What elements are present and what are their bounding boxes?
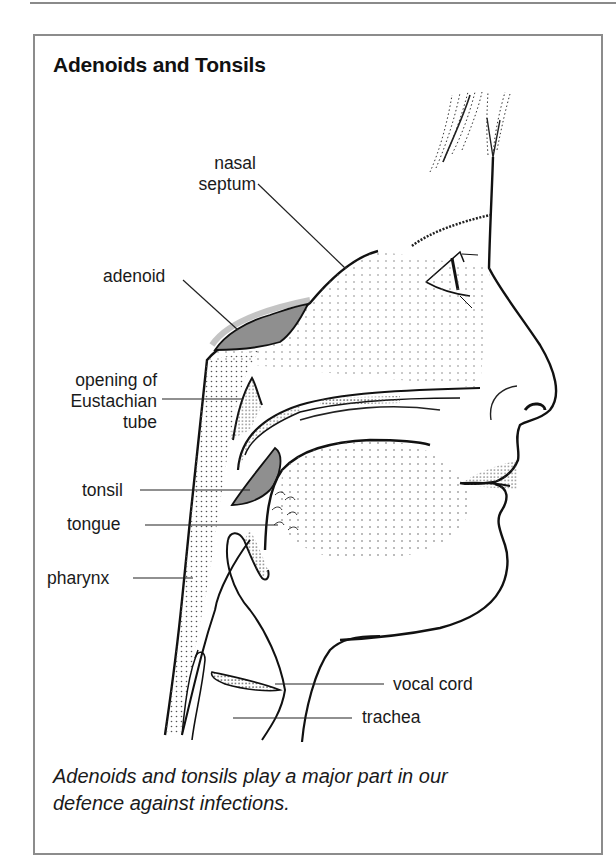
caption-line2: defence against infections. [53, 790, 573, 817]
label-nasal-septum-line1: nasal [180, 153, 256, 174]
eyebrow [412, 215, 490, 246]
label-tongue: tongue [67, 514, 121, 535]
vocal-cord [212, 672, 280, 691]
label-eustachian-tube: opening of Eustachian tube [40, 370, 157, 433]
label-tonsil: tonsil [82, 480, 123, 501]
figure-caption: Adenoids and tonsils play a major part i… [53, 763, 573, 817]
caption-line1: Adenoids and tonsils play a major part i… [53, 763, 573, 790]
label-eustachian-line2: Eustachian [40, 391, 157, 412]
label-trachea: trachea [362, 707, 420, 728]
label-nasal-septum-line2: septum [180, 174, 256, 195]
hair-strand [443, 95, 470, 162]
label-eustachian-line3: tube [40, 412, 157, 433]
label-vocal-cord: vocal cord [393, 674, 473, 695]
label-adenoid: adenoid [103, 266, 165, 287]
label-nasal-septum: nasal septum [180, 153, 256, 195]
label-pharynx: pharynx [47, 568, 109, 589]
label-eustachian-line1: opening of [40, 370, 157, 391]
